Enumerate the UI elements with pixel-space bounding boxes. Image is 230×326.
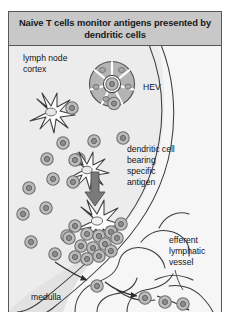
lymphocyte-near-dc-middle-2 (67, 176, 79, 188)
label-cortex-line1: lymph node (23, 53, 68, 63)
lymphocyte-near-dc-middle (69, 154, 81, 166)
label-dc-line1: dendritic cell (127, 144, 175, 154)
lymphocyte-in-sinus-1 (91, 280, 103, 292)
label-cortex-line2: cortex (23, 64, 47, 74)
label-dc-line3: specific (127, 166, 156, 176)
figure-title: Naive T cells monitor antigens presented… (9, 17, 221, 40)
label-efferent-line2: lymphatic (169, 246, 206, 256)
label-efferent-line1: efferent (169, 235, 199, 245)
lymphocyte-near-dc-upper (66, 102, 78, 114)
label-hev: HEV (143, 82, 161, 92)
label-dc-line4: antigen (127, 177, 155, 187)
figure-panel: Naive T cells monitor antigens presented… (8, 11, 222, 312)
lymphocyte-in-sinus-2 (139, 292, 151, 304)
label-medulla: medulla (31, 292, 61, 302)
lymphocyte-in-sinus-4 (177, 298, 189, 310)
lymphocyte-in-sinus-3 (159, 296, 171, 308)
label-dc-line2: bearing (127, 155, 156, 165)
label-efferent-line3: vessel (169, 257, 193, 267)
figure-title-bar: Naive T cells monitor antigens presented… (9, 12, 221, 46)
diagram-canvas: lymph node cortex HEV dendritic cell bea… (9, 46, 221, 312)
